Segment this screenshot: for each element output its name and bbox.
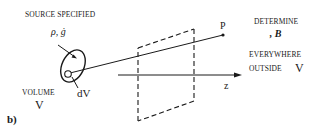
volume-element-label: dV [77,88,90,99]
volume-symbol: V [35,99,44,111]
diagram-canvas: SOURCE SPECIFIED ρ, ġ VOLUME V dV b) P z… [0,0,323,129]
volume-ellipse [56,46,90,86]
volume-element-circle [65,71,72,78]
z-axis-label: z [224,81,228,91]
position-vector-line [70,35,223,73]
fields-label: ℰ, B⃗ [262,29,289,39]
outside-label: OUTSIDE [249,65,282,73]
determine-label: DETERMINE [254,18,298,26]
source-quantities-label: ρ, ġ [51,27,66,37]
panel-label: b) [7,114,17,125]
volume-label: VOLUME [22,89,55,97]
z-axis-arrowhead-icon [234,73,242,78]
z-axis [118,73,242,78]
point-p-label: P [220,21,226,31]
outside-symbol: V [295,62,304,74]
source-specified-label: SOURCE SPECIFIED [25,11,95,19]
everywhere-label: EVERYWHERE [249,51,301,59]
point-p-dot [221,33,224,36]
